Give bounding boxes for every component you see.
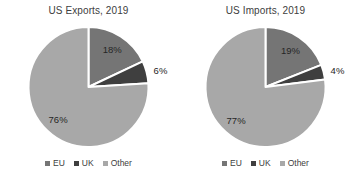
legend-item-eu: EU xyxy=(222,158,242,168)
legend-label-uk: UK xyxy=(82,158,94,168)
legend-item-other: Other xyxy=(103,158,132,168)
legend-swatch-uk xyxy=(74,161,79,166)
data-label-eu: 19% xyxy=(281,45,301,56)
data-label-uk: 6% xyxy=(154,65,168,76)
legend-label-eu: EU xyxy=(53,158,65,168)
pie-exports: 18%6%76% xyxy=(0,0,177,176)
chart-canvas: US Exports, 2019 18%6%76% EU UK Other US… xyxy=(0,0,354,176)
data-label-uk: 4% xyxy=(331,65,345,76)
legend-label-uk: UK xyxy=(259,158,271,168)
legend-item-eu: EU xyxy=(45,158,65,168)
data-label-eu: 18% xyxy=(103,44,123,55)
legend-item-uk: UK xyxy=(74,158,94,168)
pie-chart-imports: US Imports, 2019 19%4%77% EU UK Other xyxy=(177,0,354,176)
data-label-other: 76% xyxy=(49,114,69,125)
legend-item-uk: UK xyxy=(251,158,271,168)
legend-item-other: Other xyxy=(280,158,309,168)
legend-imports: EU UK Other xyxy=(177,158,354,168)
data-label-other: 77% xyxy=(227,115,247,126)
pie-chart-exports: US Exports, 2019 18%6%76% EU UK Other xyxy=(0,0,177,176)
legend-label-other: Other xyxy=(288,158,309,168)
legend-exports: EU UK Other xyxy=(0,158,177,168)
legend-swatch-eu xyxy=(222,161,227,166)
legend-swatch-other xyxy=(103,161,108,166)
legend-label-other: Other xyxy=(111,158,132,168)
legend-swatch-uk xyxy=(251,161,256,166)
legend-label-eu: EU xyxy=(230,158,242,168)
legend-swatch-other xyxy=(280,161,285,166)
pie-imports: 19%4%77% xyxy=(177,0,354,176)
legend-swatch-eu xyxy=(45,161,50,166)
